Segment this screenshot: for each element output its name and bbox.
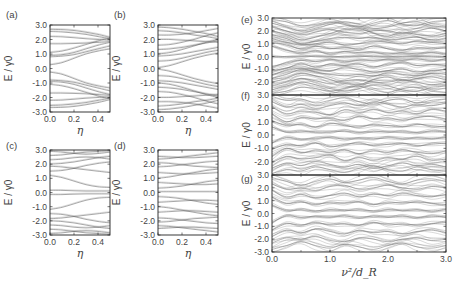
band-curve (272, 96, 446, 104)
x-tick-label: 0.4 (200, 114, 212, 124)
y-tick-label: -2.0 (140, 93, 155, 103)
x-tick-label: 0.0 (44, 114, 56, 124)
band-curve (50, 197, 110, 209)
panel-c: (c) 3.02.01.00.0-1.0-2.0-3.00.00.20.4E /… (3, 140, 110, 260)
band-curve (50, 197, 110, 209)
band-curve (50, 194, 110, 195)
y-tick-label: 2.0 (257, 103, 269, 113)
y-tick-label: 1.0 (35, 173, 47, 183)
y-tick-label: 0.0 (257, 130, 269, 140)
y-tick-label: 2.0 (143, 35, 155, 45)
x-tick-label: 2.0 (382, 254, 394, 264)
band-curve (158, 31, 218, 39)
band-curve (272, 190, 446, 199)
curves (50, 28, 110, 107)
band-curve (272, 75, 446, 87)
x-tick-label: 3.0 (440, 254, 452, 264)
panel-label: (g) (241, 173, 253, 184)
curves (272, 16, 446, 97)
band-curve (158, 97, 218, 105)
band-curve (272, 136, 446, 142)
curves (50, 150, 110, 234)
band-curve (272, 206, 446, 212)
panel-g: (g) 3.02.01.00.0-1.0-2.0-3.00.01.02.03.0… (241, 170, 452, 279)
x-tick-label: 0.2 (68, 114, 80, 124)
band-curve (158, 207, 218, 216)
panel-b: (b) 3.02.01.00.0-1.0-2.0-3.00.00.20.4E /… (111, 9, 218, 137)
curves (158, 152, 218, 232)
band-curve (272, 122, 446, 128)
band-curve (272, 141, 446, 148)
band-curve (50, 211, 110, 217)
band-curve (158, 206, 218, 215)
y-axis-label: E / γ0 (111, 179, 122, 205)
y-tick-label: 2.0 (257, 26, 269, 36)
y-tick-label: -1.0 (254, 64, 269, 74)
band-curve (158, 152, 218, 158)
y-tick-label: -2.0 (254, 234, 269, 244)
band-curve (272, 206, 446, 213)
y-tick-label: 0.0 (143, 64, 155, 74)
x-axis-label: η (185, 247, 192, 260)
x-tick-label: 0.0 (152, 237, 164, 247)
x-tick-label: 0.2 (68, 237, 80, 247)
x-axis-label: η (185, 124, 192, 137)
y-axis-label: E / γ0 (241, 200, 252, 226)
y-tick-label: 1.0 (143, 49, 155, 59)
panel-label: (a) (6, 9, 18, 20)
y-axis-label: E / γ0 (111, 55, 122, 81)
y-tick-label: 1.0 (257, 196, 269, 206)
band-curve (50, 190, 110, 191)
x-tick-label: 0.4 (92, 114, 104, 124)
y-tick-label: -1.0 (32, 202, 47, 212)
y-axis-label: E / γ0 (3, 55, 14, 81)
x-tick-label: 0.0 (44, 237, 56, 247)
x-tick-label: 1.0 (324, 254, 336, 264)
y-tick-label: -1.0 (140, 78, 155, 88)
curves (272, 173, 446, 254)
curves (272, 93, 446, 177)
panel-label: (f) (241, 90, 250, 101)
y-tick-label: 2.0 (35, 159, 47, 169)
figure: (a) 3.02.01.00.0-1.0-2.0-3.00.00.20.4E /… (0, 0, 464, 291)
y-tick-label: -2.0 (140, 216, 155, 226)
y-tick-label: 2.0 (257, 183, 269, 193)
panel-label: (b) (114, 9, 126, 20)
y-tick-label: 3.0 (257, 170, 269, 180)
y-axis-label: E / γ0 (3, 179, 14, 205)
y-tick-label: -1.0 (32, 78, 47, 88)
y-tick-label: 3.0 (257, 13, 269, 23)
curves (158, 26, 218, 110)
y-tick-label: -2.0 (254, 77, 269, 87)
x-tick-label: 0.0 (266, 254, 278, 264)
y-tick-label: 0.0 (143, 188, 155, 198)
band-curve (50, 175, 110, 187)
band-curve (158, 33, 218, 45)
band-curve (158, 168, 218, 177)
band-curve (158, 226, 218, 232)
band-curve (272, 244, 446, 254)
y-tick-label: 0.0 (35, 188, 47, 198)
band-curve (50, 41, 110, 43)
y-tick-label: 2.0 (35, 35, 47, 45)
band-curve (272, 114, 446, 122)
y-axis-label: E / γ0 (241, 122, 252, 148)
band-curve (272, 117, 446, 122)
y-tick-label: 1.0 (35, 49, 47, 59)
band-curve (272, 179, 446, 189)
y-axis-label: E / γ0 (241, 43, 252, 69)
y-tick-label: 3.0 (257, 90, 269, 100)
y-tick-label: 3.0 (35, 20, 47, 30)
x-tick-label: 0.0 (152, 114, 164, 124)
y-tick-label: -2.0 (32, 93, 47, 103)
y-tick-label: 0.0 (257, 209, 269, 219)
panel-f: (f) 3.02.01.00.0-1.0-2.0E / γ0 (241, 90, 446, 176)
x-tick-label: 0.4 (200, 237, 212, 247)
y-tick-label: 2.0 (143, 159, 155, 169)
band-curve (158, 87, 218, 96)
y-tick-label: -1.0 (140, 202, 155, 212)
panel-e: (e) 3.02.01.00.0-1.0-2.0E / γ0 (241, 13, 446, 97)
x-axis-label: η (77, 247, 84, 260)
y-tick-label: -1.0 (254, 221, 269, 231)
y-tick-label: 3.0 (143, 145, 155, 155)
